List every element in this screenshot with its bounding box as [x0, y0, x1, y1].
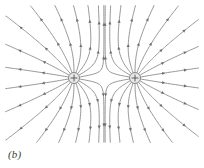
electric-field-diagram	[0, 0, 204, 168]
field-arrowhead	[127, 44, 130, 47]
field-line	[6, 83, 70, 140]
field-line	[80, 79, 104, 142]
field-line	[76, 84, 81, 143]
field-arrowhead	[76, 18, 79, 21]
field-line	[110, 81, 130, 142]
field-line	[118, 5, 131, 73]
field-arrowhead	[98, 21, 101, 24]
field-line	[135, 6, 154, 73]
field-arrowhead	[98, 126, 101, 129]
field-line	[128, 84, 133, 143]
field-line	[37, 84, 72, 143]
field-arrowhead	[110, 99, 113, 102]
field-arrowhead	[108, 126, 111, 129]
field-arrowhead	[102, 93, 105, 96]
field-line	[105, 79, 129, 142]
field-line	[78, 83, 91, 143]
field-arrowhead	[96, 99, 99, 102]
field-arrowhead	[88, 20, 91, 23]
field-line	[140, 47, 198, 76]
field-line	[137, 84, 172, 143]
field-line	[31, 6, 72, 73]
left-charge	[69, 73, 80, 84]
field-line	[6, 79, 69, 89]
field-arrowhead	[117, 127, 120, 130]
field-line	[74, 6, 81, 73]
field-line	[137, 6, 178, 73]
field-line	[140, 81, 198, 110]
field-arrowhead	[104, 93, 107, 96]
right-charge	[130, 73, 141, 84]
field-line	[118, 83, 131, 143]
field-arrowheads-group	[18, 18, 187, 132]
field-arrowhead	[117, 20, 120, 23]
field-line	[128, 6, 135, 73]
field-arrowhead	[108, 21, 111, 24]
field-arrowhead	[89, 127, 92, 130]
field-arrowhead	[79, 105, 82, 108]
field-arrowhead	[79, 44, 82, 47]
field-line	[6, 67, 69, 77]
field-line	[79, 81, 99, 142]
point-charges-group	[69, 73, 141, 84]
field-arrowhead	[127, 105, 130, 108]
field-line	[6, 81, 69, 112]
panel-label: (b)	[8, 148, 21, 160]
field-line	[55, 6, 74, 73]
field-line	[139, 20, 198, 74]
figure-panel: (b)	[0, 0, 204, 168]
field-line	[139, 83, 198, 137]
field-arrowhead	[129, 128, 132, 131]
field-arrowhead	[130, 18, 133, 21]
field-lines-group	[6, 5, 199, 142]
field-line	[6, 44, 69, 75]
field-line	[78, 5, 91, 73]
field-arrowhead	[77, 128, 80, 131]
field-line	[6, 16, 70, 73]
